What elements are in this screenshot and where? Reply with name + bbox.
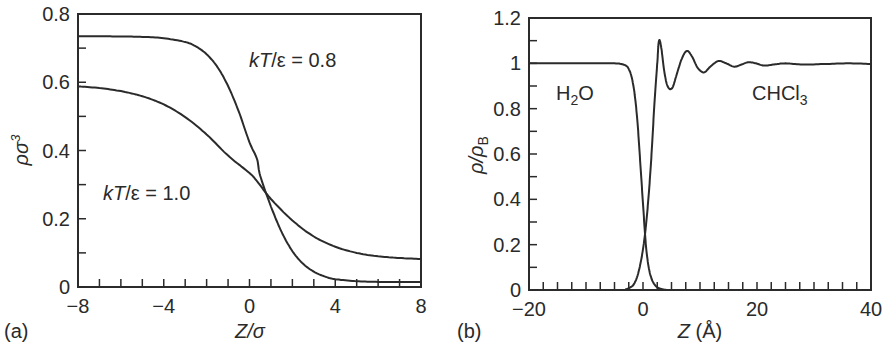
panel-b-tick-labels: −200204000.20.40.60.811.2 — [493, 7, 882, 320]
x-tick-label: 4 — [330, 295, 341, 317]
x-tick-label: 0 — [637, 298, 648, 320]
panel-b-curve-chcl3 — [529, 40, 871, 290]
x-tick-label: 20 — [746, 298, 768, 320]
x-tick-label: −8 — [67, 295, 90, 317]
x-tick-label: −4 — [152, 295, 175, 317]
panel-b-relative-density-chart: −200204000.20.40.60.811.2 H2O CHCl3 Z (Å… — [457, 7, 882, 342]
x-tick-label: −20 — [512, 298, 546, 320]
panel-a-y-axis-label: ρσ3 — [8, 134, 32, 167]
y-tick-label: 0.4 — [493, 188, 521, 210]
panel-b-annotation-chcl3: CHCl3 — [752, 82, 808, 108]
y-tick-label: 0 — [59, 276, 70, 298]
y-tick-label: 0.2 — [42, 208, 70, 230]
y-tick-label: 1.2 — [493, 7, 521, 29]
y-tick-label: 0.2 — [493, 234, 521, 256]
x-tick-label: 40 — [860, 298, 882, 320]
panel-b-label: (b) — [457, 320, 481, 342]
y-tick-label: 1 — [510, 52, 521, 74]
panel-b-plot-frame — [529, 18, 871, 290]
figure: −8−404800.20.40.60.8 kT/ε = 0.8 kT/ε = 1… — [0, 0, 884, 348]
y-tick-label: 0.6 — [493, 143, 521, 165]
y-tick-label: 0.8 — [493, 98, 521, 120]
panel-b-ticks — [529, 18, 871, 290]
panel-a-curve-kt-1.0 — [78, 86, 421, 259]
x-tick-label: 8 — [415, 295, 426, 317]
x-tick-label: 0 — [244, 295, 255, 317]
y-tick-label: 0 — [510, 279, 521, 301]
panel-a-x-axis-label: Z/σ — [234, 320, 266, 342]
y-tick-label: 0.4 — [42, 140, 70, 162]
panel-a-annotation-kt-0.8: kT/ε = 0.8 — [249, 49, 336, 71]
panel-b-y-axis-label: ρ/ρB — [465, 136, 491, 175]
y-tick-label: 0.8 — [42, 3, 70, 25]
panel-b-x-axis-label: Z (Å) — [677, 320, 722, 342]
panel-b-annotation-h2o: H2O — [556, 82, 594, 108]
panel-a-annotation-kt-1.0: kT/ε = 1.0 — [103, 182, 190, 204]
panel-a-curve-kt-0.8 — [78, 36, 421, 282]
panel-a-density-profile-chart: −8−404800.20.40.60.8 kT/ε = 0.8 kT/ε = 1… — [4, 3, 427, 342]
panel-a-label: (a) — [4, 320, 28, 342]
y-tick-label: 0.6 — [42, 71, 70, 93]
